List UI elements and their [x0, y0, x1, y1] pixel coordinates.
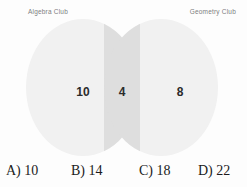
answer-choice-b[interactable]: B) 14: [71, 163, 103, 179]
venn-set-label-algebra: Algebra Club: [28, 8, 68, 15]
venn-set-label-geometry: Geometry Club: [190, 8, 236, 15]
venn-count-intersection: 4: [104, 85, 140, 99]
answer-choice-a[interactable]: A) 10: [6, 163, 38, 179]
venn-count-algebra-only: 10: [62, 85, 104, 99]
answer-choice-d[interactable]: D) 22: [198, 163, 230, 179]
answer-choice-c[interactable]: C) 18: [139, 163, 171, 179]
answer-choices: A) 10 B) 14 C) 18 D) 22: [0, 160, 247, 187]
venn-diagram: Algebra Club Geometry Club 10 4 8: [0, 0, 247, 160]
venn-count-geometry-only: 8: [160, 85, 200, 99]
venn-question-page: Algebra Club Geometry Club 10 4 8 A) 10 …: [0, 0, 247, 187]
